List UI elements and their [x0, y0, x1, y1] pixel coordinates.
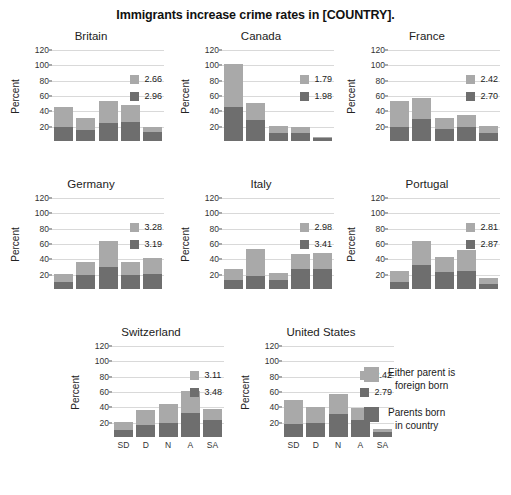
bar-segment-born-in-country — [99, 123, 118, 142]
x-axis-baseline — [52, 141, 164, 142]
bar-segment-foreign-born — [269, 273, 288, 280]
y-tick-label: 100 — [363, 60, 385, 70]
panel-mean-legend: 2.812.87 — [466, 222, 498, 249]
bar-segment-foreign-born — [76, 262, 95, 274]
stacked-bar — [159, 404, 178, 438]
panel-germany: GermanyPercent204060801001203.283.19 — [6, 178, 176, 328]
y-axis-label-text: Percent — [180, 79, 191, 113]
y-axis-label: Percent — [8, 50, 22, 142]
bar-segment-foreign-born — [269, 126, 288, 133]
legend-label-dark-line2: in country — [388, 419, 445, 432]
bar-segment-born-in-country — [457, 127, 476, 142]
bar-segment-born-in-country — [284, 424, 303, 438]
panel-mean-value-dark: 1.98 — [314, 91, 332, 101]
stacked-bar — [457, 250, 476, 290]
chart-legend: Either parent is foreign born Parents bo… — [364, 366, 509, 446]
panel-mean-entry-dark: 2.87 — [466, 239, 498, 249]
legend-label-dark-line1: Parents born — [388, 407, 445, 418]
panel-mean-value-dark: 2.96 — [144, 91, 162, 101]
bar-segment-foreign-born — [121, 105, 140, 122]
bar-segment-foreign-born — [159, 404, 178, 423]
bar-segment-born-in-country — [99, 267, 118, 290]
bar-segment-born-in-country — [203, 420, 222, 438]
panel-mean-swatch-light — [190, 371, 199, 380]
y-tick-label: 100 — [87, 356, 109, 366]
bar-segment-born-in-country — [54, 127, 73, 142]
bar-segment-born-in-country — [121, 122, 140, 142]
panel-mean-legend: 3.113.48 — [190, 370, 222, 397]
plot-wrap: 204060801001202.422.70 — [388, 50, 500, 148]
legend-label-dark: Parents born in country — [388, 406, 445, 432]
chart-title: Immigrants increase crime rates in [COUN… — [0, 8, 511, 22]
stacked-bar — [269, 126, 288, 142]
bar-segment-foreign-born — [457, 115, 476, 127]
bar-segment-foreign-born — [291, 254, 310, 269]
stacked-bar — [54, 274, 73, 290]
y-tick-label: 20 — [363, 122, 385, 132]
stacked-bar — [306, 407, 325, 438]
stacked-bar — [121, 105, 140, 142]
y-axis-label: Percent — [344, 198, 358, 290]
y-axis-label-text: Percent — [346, 79, 357, 113]
panel-mean-entry-dark: 3.41 — [300, 239, 332, 249]
stacked-bar — [181, 391, 200, 438]
bar-segment-born-in-country — [224, 107, 243, 142]
y-tick-label: 20 — [27, 270, 49, 280]
bar-segment-born-in-country — [306, 423, 325, 438]
bar-segment-foreign-born — [329, 394, 348, 415]
legend-label-light-line1: Either parent is — [388, 367, 455, 378]
y-tick-label: 20 — [257, 418, 279, 428]
x-axis-baseline — [388, 289, 500, 290]
y-tick-label: 40 — [197, 254, 219, 264]
panel-mean-entry-dark: 2.70 — [466, 91, 498, 101]
bar-segment-born-in-country — [143, 274, 162, 290]
bar-segment-foreign-born — [99, 241, 118, 267]
stacked-bar — [99, 101, 118, 142]
bar-segment-born-in-country — [159, 423, 178, 438]
bar-segment-foreign-born — [390, 101, 409, 126]
bar-segment-born-in-country — [435, 272, 454, 290]
x-axis-baseline — [388, 141, 500, 142]
panel-mean-value-dark: 3.41 — [314, 239, 332, 249]
x-tick-label: SA — [203, 440, 222, 450]
panel-mean-legend: 3.283.19 — [130, 222, 162, 249]
bar-segment-foreign-born — [76, 118, 95, 130]
bar-segment-foreign-born — [412, 98, 431, 119]
y-axis-label: Percent — [178, 50, 192, 142]
panel-mean-entry-light: 2.81 — [466, 222, 498, 232]
panel-mean-entry-light: 2.42 — [466, 74, 498, 84]
bar-segment-foreign-born — [284, 400, 303, 425]
stacked-bar — [224, 64, 243, 142]
bar-segment-born-in-country — [313, 269, 332, 290]
stacked-bar — [313, 253, 332, 290]
stacked-bar — [479, 126, 498, 142]
bar-segment-foreign-born — [203, 409, 222, 420]
panel-mean-value-dark: 2.87 — [480, 239, 498, 249]
panel-mean-swatch-dark — [466, 92, 475, 101]
stacked-bar — [143, 258, 162, 290]
bar-segment-foreign-born — [54, 107, 73, 127]
y-tick-label: 20 — [363, 270, 385, 280]
panel-title: United States — [236, 326, 406, 338]
stacked-bar — [143, 127, 162, 142]
panel-portugal: PortugalPercent204060801001202.812.87 — [342, 178, 511, 328]
y-axis-label: Percent — [68, 346, 82, 438]
panel-mean-entry-dark: 3.48 — [190, 387, 222, 397]
y-tick-label: 60 — [197, 91, 219, 101]
y-tick-label: 60 — [27, 239, 49, 249]
y-tick-label: 100 — [27, 60, 49, 70]
bar-segment-foreign-born — [390, 271, 409, 282]
panel-mean-entry-dark: 2.96 — [130, 91, 162, 101]
stacked-bar — [246, 249, 265, 290]
panel-mean-swatch-light — [466, 223, 475, 232]
bar-segment-foreign-born — [313, 253, 332, 268]
bar-segment-foreign-born — [143, 258, 162, 274]
y-axis-label: Percent — [178, 198, 192, 290]
y-axis-label-text: Percent — [346, 227, 357, 261]
panel-mean-entry-light: 3.28 — [130, 222, 162, 232]
x-axis-baseline — [222, 289, 334, 290]
panel-mean-value-light: 3.11 — [204, 370, 221, 380]
y-axis-label-text: Percent — [180, 227, 191, 261]
panel-france: FrancePercent204060801001202.422.70 — [342, 30, 511, 180]
bar-segment-born-in-country — [412, 119, 431, 142]
